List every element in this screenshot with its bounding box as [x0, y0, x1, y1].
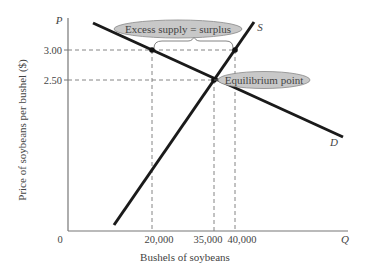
y-tick-label-250: 2.50	[44, 75, 62, 86]
supply-demand-chart: Excess supply = surplus Equilibrium poin…	[0, 0, 370, 273]
point-qs-300	[232, 47, 238, 53]
supply-label: S	[257, 21, 263, 33]
supply-curve	[114, 22, 254, 225]
x-axis-symbol: Q	[341, 233, 349, 245]
x-tick-label-40000: 40,000	[228, 234, 257, 245]
x-tick-label-35000: 35,000	[194, 234, 223, 245]
y-axis-symbol: P	[55, 14, 63, 26]
equilibrium-label: Equilibrium point	[225, 74, 304, 86]
surplus-label: Excess supply = surplus	[125, 23, 231, 35]
y-tick-label-300: 3.00	[44, 45, 62, 56]
point-qd-300	[149, 47, 155, 53]
demand-label: D	[329, 136, 338, 148]
origin-label: 0	[57, 234, 62, 245]
y-axis-title: Price of soybeans per bushel ($)	[16, 59, 29, 201]
x-axis-title: Bushels of soybeans	[140, 251, 230, 263]
x-tick-label-20000: 20,000	[145, 234, 174, 245]
